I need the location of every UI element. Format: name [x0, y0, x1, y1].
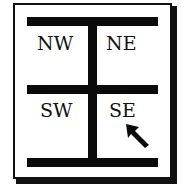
quadrant-ne[interactable]: NE	[106, 34, 137, 53]
quadrant-nw[interactable]: NW	[37, 34, 73, 53]
arrow-cursor-icon	[124, 122, 152, 150]
quadrant-sw[interactable]: SW	[40, 101, 73, 120]
quadrant-se[interactable]: SE	[109, 101, 136, 120]
center-divider	[88, 17, 97, 166]
